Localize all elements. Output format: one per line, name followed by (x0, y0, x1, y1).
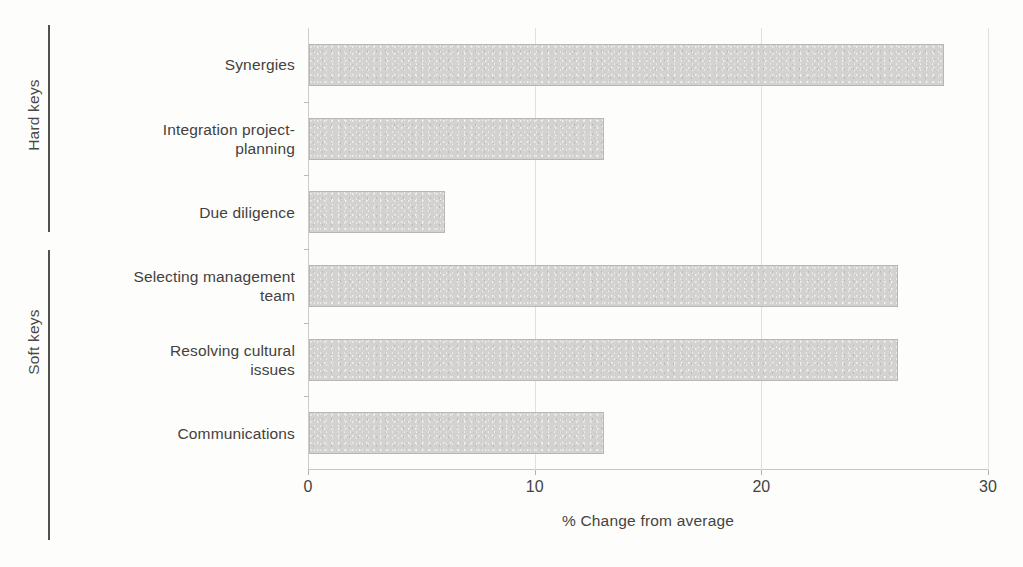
category-label-selecting-management-team: Selecting management team (55, 267, 295, 305)
x-axis-tick-label: 0 (278, 478, 338, 496)
category-label-communications: Communications (55, 424, 295, 443)
category-label-line2: issues (55, 360, 295, 379)
x-axis-tick (761, 470, 762, 475)
bar (309, 118, 604, 160)
gridline (761, 28, 762, 470)
gridline (988, 28, 989, 470)
group-bracket-soft-keys (48, 250, 50, 540)
bar (309, 412, 604, 454)
category-label-resolving-cultural-issues: Resolving cultural issues (55, 341, 295, 379)
x-axis-tick-label: 30 (958, 478, 1018, 496)
category-label-line1: Integration project- (55, 120, 295, 139)
category-label-line1: Selecting management (55, 267, 295, 286)
group-label-soft-keys: Soft keys (25, 282, 43, 402)
bar (309, 44, 944, 86)
y-axis-tick (304, 396, 309, 397)
y-axis-tick (304, 249, 309, 250)
plot-area (308, 28, 988, 470)
category-label-line2: team (55, 286, 295, 305)
x-axis-tick (988, 470, 989, 475)
category-label-line1: Communications (55, 424, 295, 443)
category-label-line1: Due diligence (55, 203, 295, 222)
x-axis-tick (535, 470, 536, 475)
x-axis-tick-label: 20 (731, 478, 791, 496)
category-label-line1: Resolving cultural (55, 341, 295, 360)
category-label-line1: Synergies (55, 55, 295, 74)
gridline (535, 28, 536, 470)
category-label-integration-project-planning: Integration project- planning (55, 120, 295, 158)
y-axis-tick (304, 323, 309, 324)
x-axis-tick (308, 470, 309, 475)
bar (309, 265, 898, 307)
bar-chart-figure: Hard keys Soft keys Synergies Integratio… (0, 0, 1023, 567)
group-bracket-hard-keys (48, 25, 50, 232)
category-label-line2: planning (55, 139, 295, 158)
x-axis-tick-label: 10 (505, 478, 565, 496)
category-label-due-diligence: Due diligence (55, 203, 295, 222)
group-label-hard-keys: Hard keys (25, 55, 43, 175)
y-axis-tick (304, 175, 309, 176)
x-axis-title: % Change from average (308, 512, 988, 530)
x-axis-line (308, 469, 988, 470)
bar (309, 191, 445, 233)
y-axis-tick (304, 102, 309, 103)
bar (309, 339, 898, 381)
category-label-synergies: Synergies (55, 55, 295, 74)
